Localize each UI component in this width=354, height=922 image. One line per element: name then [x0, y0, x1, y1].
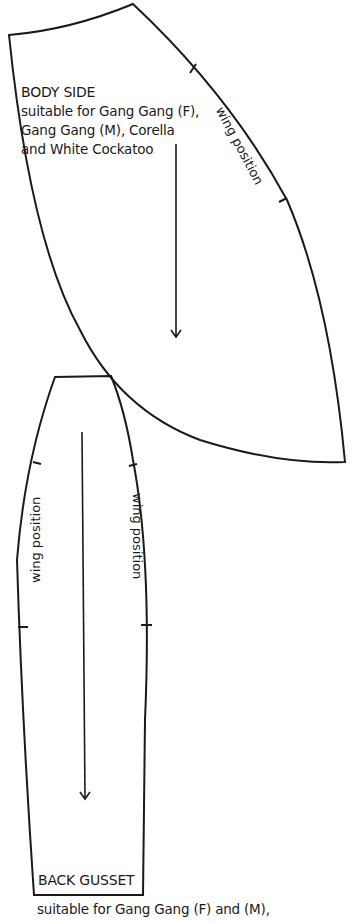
gusset-notch-left-top — [33, 462, 41, 464]
body-side-line1: suitable for Gang Gang (F), — [21, 102, 199, 121]
back-gusset-caption: suitable for Gang Gang (F) and (M), — [37, 900, 270, 919]
gusset-grain-line — [82, 432, 85, 798]
body-side-notch-bottom — [279, 198, 287, 202]
body-side-line2: Gang Gang (M), Corella — [21, 121, 175, 140]
body-side-line3: and White Cockatoo — [21, 140, 153, 159]
gusset-wing-label-right: wing position — [130, 493, 145, 579]
back-gusset-title: BACK GUSSET — [38, 871, 134, 890]
body-side-outline — [9, 4, 345, 462]
gusset-notch-right-top — [129, 464, 137, 466]
body-side-title: BODY SIDE — [21, 83, 95, 102]
gusset-wing-label-left: wing position — [28, 497, 43, 583]
